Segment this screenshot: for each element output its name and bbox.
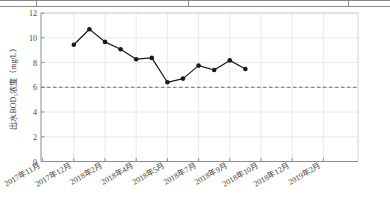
data-point (118, 47, 123, 52)
data-point (196, 63, 201, 68)
data-point (134, 57, 139, 62)
data-point (87, 27, 92, 32)
y-tick-label: 12 (29, 9, 37, 18)
data-point (72, 42, 77, 47)
y-axis-title: 出水BOD₅浓度（mg/L） (8, 44, 18, 129)
data-point (228, 58, 233, 63)
line-chart-canvas: 12 10 8 6 4 2 0 出水BOD₅浓度（mg/L） (0, 0, 390, 204)
data-point (181, 76, 186, 81)
data-point (150, 56, 155, 61)
y-tick-label: 6 (33, 83, 37, 92)
y-tick-label: 2 (33, 133, 37, 142)
data-point (165, 80, 170, 85)
y-tick-label: 4 (33, 108, 37, 117)
chart-figure: 12 10 8 6 4 2 0 出水BOD₅浓度（mg/L） (0, 0, 390, 204)
data-point (243, 67, 248, 72)
data-point (103, 40, 108, 45)
y-tick-label: 10 (29, 34, 37, 43)
y-tick-label: 8 (33, 59, 37, 68)
data-point (212, 68, 217, 73)
